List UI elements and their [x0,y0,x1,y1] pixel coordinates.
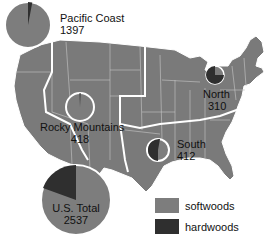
pie-south [147,139,169,161]
label-us-total: U.S. Total 2537 [46,202,106,226]
region-name: Pacific Coast [60,12,124,24]
label-north: North 310 [203,88,230,112]
pie-rocky-mountains [66,93,94,121]
region-name: North [203,88,230,100]
region-name: South [177,138,206,150]
region-value: 310 [203,100,230,112]
region-name: Rocky Mountains [40,121,120,133]
label-south: South 412 [177,138,206,162]
legend-label-hardwoods: hardwoods [185,221,239,233]
region-value: 2537 [46,214,106,226]
label-rocky-mountains: Rocky Mountains 418 [40,121,120,145]
legend-swatch-softwoods [155,198,179,213]
label-pacific-coast: Pacific Coast 1397 [60,12,124,36]
region-name: U.S. Total [46,202,106,214]
pie-pacific-coast [5,2,51,48]
region-value: 418 [40,133,120,145]
pie-north [206,66,224,84]
region-value: 1397 [60,24,124,36]
region-value: 412 [177,150,206,162]
legend-label-softwoods: softwoods [185,200,235,212]
us-timber-map-chart: Pacific Coast 1397 Rocky Mountains 418 N… [0,0,277,245]
legend-swatch-hardwoods [155,219,179,234]
